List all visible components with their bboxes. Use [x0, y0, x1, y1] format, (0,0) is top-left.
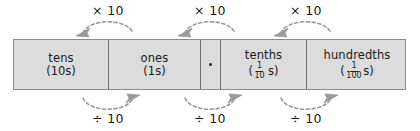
- place-value-cell-hundredths: hundredths(1100s): [307, 40, 407, 89]
- place-value-cell-tenths: tenths(110s): [221, 40, 307, 89]
- place-value-magnitude: (110s): [248, 62, 278, 80]
- fraction: 1100: [345, 62, 362, 80]
- place-value-name: tens: [48, 52, 73, 64]
- place-value-diagram: × 10× 10× 10 tens(10s)ones(1s)tenths(110…: [0, 0, 420, 131]
- arrow-label-multiply-2: × 10: [167, 3, 253, 18]
- place-value-cell-ones: ones(1s): [109, 40, 201, 89]
- place-value-magnitude: (1100s): [340, 62, 373, 80]
- arrow-group-multiply-2: × 10: [167, 3, 253, 43]
- place-value-magnitude: (10s): [46, 65, 76, 77]
- magnitude-value: 1: [148, 65, 155, 77]
- magnitude-suffix: s): [363, 65, 373, 77]
- magnitude-suffix: s): [65, 65, 75, 77]
- arrow-group-divide-1: ÷ 10: [65, 90, 151, 130]
- arrow-group-multiply-1: × 10: [65, 3, 151, 43]
- fraction: 110: [253, 62, 265, 80]
- open-paren: (: [340, 65, 345, 77]
- place-value-name: ones: [141, 52, 169, 64]
- fraction-denominator: 100: [345, 72, 362, 80]
- decimal-point-mark: [209, 63, 212, 66]
- fraction-denominator: 10: [253, 72, 265, 80]
- magnitude-value: 10: [51, 65, 66, 77]
- arrow-label-divide-3: ÷ 10: [263, 111, 349, 126]
- magnitude-suffix: s): [155, 65, 165, 77]
- place-value-magnitude: (1s): [143, 65, 165, 77]
- arrow-label-multiply-1: × 10: [65, 3, 151, 18]
- magnitude-suffix: s): [268, 65, 278, 77]
- place-value-cell-decimal-point: [201, 40, 221, 89]
- arrow-group-multiply-3: × 10: [263, 3, 349, 43]
- arrow-label-multiply-3: × 10: [263, 3, 349, 18]
- arrow-label-divide-1: ÷ 10: [65, 111, 151, 126]
- arrow-label-divide-2: ÷ 10: [167, 111, 253, 126]
- arrow-group-divide-2: ÷ 10: [167, 90, 253, 130]
- arrow-group-divide-3: ÷ 10: [263, 90, 349, 130]
- place-value-table: tens(10s)ones(1s)tenths(110s)hundredths(…: [13, 39, 406, 90]
- open-paren: (: [248, 65, 253, 77]
- place-value-name: tenths: [245, 49, 282, 61]
- place-value-name: hundredths: [324, 49, 391, 61]
- place-value-cell-tens: tens(10s): [14, 40, 109, 89]
